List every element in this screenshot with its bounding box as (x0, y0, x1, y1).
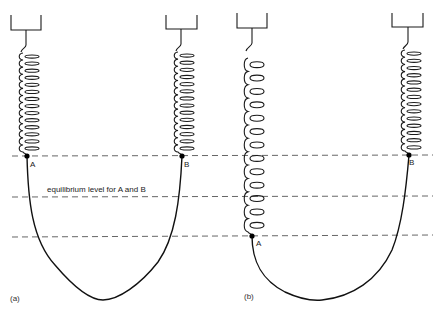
spring-rope-diagram: equilibrium level for A and B A B (a) (0, 0, 433, 314)
support-bracket-b (392, 13, 423, 49)
dashed-line-top (12, 155, 433, 156)
spring-a (244, 58, 264, 236)
support-bracket-a (237, 13, 267, 51)
dashed-line-equilibrium (12, 196, 433, 197)
support-bracket-a (11, 15, 41, 52)
point-b-label: B (409, 158, 414, 167)
point-a-label: A (30, 160, 36, 169)
rope-a (27, 156, 182, 300)
panel-b: A B (b) (237, 13, 423, 301)
point-b-label: B (184, 160, 189, 169)
point-a-label: A (256, 239, 262, 248)
equilibrium-label: equilibrium level for A and B (47, 185, 146, 194)
mass-point-b (406, 152, 411, 157)
spring-b (401, 50, 421, 155)
dashed-reference-lines (12, 155, 433, 237)
spring-b (174, 52, 194, 156)
panel-b-caption: (b) (244, 292, 254, 301)
mass-point-a (249, 233, 254, 238)
spring-a (19, 53, 39, 156)
mass-point-a (24, 153, 29, 158)
mass-point-b (179, 153, 184, 158)
rope-b (252, 155, 409, 300)
panel-a: A B (a) (10, 15, 197, 303)
support-bracket-b (166, 15, 197, 51)
panel-a-caption: (a) (10, 294, 20, 303)
dashed-line-bottom (12, 235, 433, 237)
